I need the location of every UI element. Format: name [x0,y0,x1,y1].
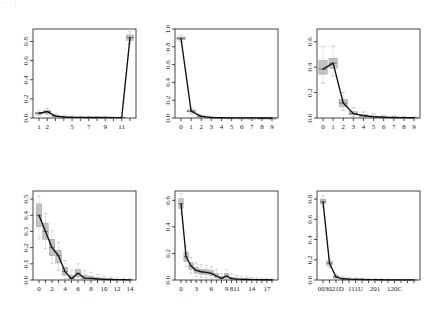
svg-text:14: 14 [127,285,135,293]
svg-text:8: 8 [402,123,406,131]
svg-text:2: 2 [46,123,50,131]
svg-text:0.6: 0.6 [306,214,314,223]
svg-text:0: 0 [321,123,325,131]
svg-text:3: 3 [210,123,214,131]
plot-area: 0.00.20.40.60.81.00123456789 [142,0,284,162]
chart-panel-geodesic-distances: 0.00.20.40.60.81257911 [0,0,142,162]
svg-text:0.6: 0.6 [164,60,172,69]
svg-text:0.4: 0.4 [164,78,172,87]
plot-area: 0.00.20.40.60.81257911 [0,0,142,162]
svg-text:0.0: 0.0 [306,113,314,122]
chart-panel-edge-wise-shared-partners: 0.00.20.40.60123456789 [284,0,426,162]
svg-text:11: 11 [118,123,125,131]
svg-text:0.0: 0.0 [22,113,30,122]
svg-text:0.0: 0.0 [306,275,314,284]
svg-text:0.8: 0.8 [164,42,172,51]
svg-text:0.4: 0.4 [22,75,30,84]
svg-text:0.6: 0.6 [164,195,172,204]
svg-text:201: 201 [370,285,381,293]
svg-text:0.6: 0.6 [22,56,30,65]
svg-text:4: 4 [220,123,224,131]
svg-text:0.8: 0.8 [22,37,30,46]
svg-text:5: 5 [230,123,234,131]
svg-text:0: 0 [179,285,183,293]
svg-text:0.0: 0.0 [164,275,172,284]
svg-text:1: 1 [189,123,193,131]
chart-panel-dyad-wise-shared-partners: 0.00.20.40.60.81.00123456789 [142,0,284,162]
svg-text:1: 1 [37,123,41,131]
svg-text:0.4: 0.4 [306,62,314,71]
svg-text:0.4: 0.4 [306,235,314,244]
svg-text:8: 8 [89,285,93,293]
svg-text:7: 7 [250,123,254,131]
svg-text:0.5: 0.5 [22,194,30,203]
svg-text:0.3: 0.3 [22,227,30,236]
svg-text:0.0: 0.0 [22,275,30,284]
svg-text:3: 3 [194,285,198,293]
svg-text:0: 0 [179,123,183,131]
svg-text:12: 12 [114,285,122,293]
svg-text:4: 4 [362,123,366,131]
svg-text:4: 4 [63,285,67,293]
svg-text:14: 14 [248,285,256,293]
svg-text:9: 9 [103,123,107,131]
svg-text:111U: 111U [348,285,363,293]
svg-text:6: 6 [76,285,80,293]
chart-panel-triad-census: 0.00.20.40.60.8003021D111U201120C [284,162,426,324]
svg-text:6: 6 [210,285,214,293]
svg-text:0.2: 0.2 [306,255,314,264]
chart-panel-outdegree: 0.00.20.40.603698111417 [142,162,284,324]
svg-text:2: 2 [199,123,203,131]
svg-text:10: 10 [101,285,109,293]
plot-area: 0.00.20.40.603698111417 [142,162,284,324]
svg-text:0.1: 0.1 [22,259,30,268]
svg-text:1.0: 1.0 [164,24,172,33]
svg-text:0.4: 0.4 [22,210,30,219]
svg-text:9: 9 [270,123,274,131]
svg-text:17: 17 [263,285,271,293]
svg-text:021D: 021D [328,285,344,293]
gof-panel-figure: ' ' ' | 0.00.20.40.60.812579110.00.20.40… [0,0,426,324]
svg-text:5: 5 [70,123,74,131]
svg-text:1: 1 [331,123,335,131]
svg-text:2: 2 [341,123,345,131]
svg-text:5: 5 [372,123,376,131]
svg-text:0.2: 0.2 [164,95,172,104]
plot-area: 0.00.20.40.60123456789 [284,0,426,162]
svg-text:0.8: 0.8 [306,194,314,203]
svg-text:2: 2 [50,285,54,293]
svg-text:7: 7 [392,123,396,131]
svg-text:6: 6 [382,123,386,131]
svg-text:120C: 120C [387,285,403,293]
svg-text:0.6: 0.6 [306,37,314,46]
chart-panel-indegree: 0.00.10.20.30.40.502468101214 [0,162,142,324]
svg-text:0.2: 0.2 [22,243,30,252]
svg-text:7: 7 [87,123,91,131]
svg-text:0.4: 0.4 [164,222,172,231]
plot-area: 0.00.20.40.60.8003021D111U201120C [284,162,426,324]
plot-area: 0.00.10.20.30.40.502468101214 [0,162,142,324]
svg-text:0.2: 0.2 [306,88,314,97]
svg-text:003: 003 [318,285,329,293]
svg-text:9: 9 [412,123,416,131]
svg-text:9: 9 [225,285,229,293]
svg-text:0.0: 0.0 [164,113,172,122]
svg-text:0.2: 0.2 [164,249,172,258]
svg-text:11: 11 [233,285,240,293]
svg-text:8: 8 [260,123,264,131]
svg-text:3: 3 [352,123,356,131]
svg-text:6: 6 [240,123,244,131]
svg-text:0: 0 [37,285,41,293]
svg-text:0.2: 0.2 [22,94,30,103]
